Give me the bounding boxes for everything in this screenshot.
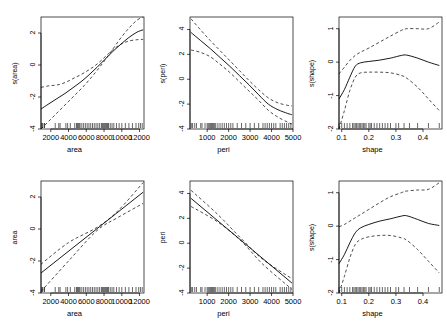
panel-top-right: -2-1010.10.20.30.4shapes(shape): [298, 0, 447, 164]
series-fit: [339, 55, 439, 99]
y-tick-label: 0: [26, 61, 38, 68]
y-tick-label-text: 4: [178, 23, 185, 35]
series-upper-se: [41, 183, 143, 265]
y-tick-label-text: -4: [29, 123, 36, 135]
y-axis-label-text: peri: [160, 231, 167, 243]
y-tick-label-text: 0: [327, 220, 334, 232]
y-axis-label: s(shape): [306, 181, 318, 293]
y-tick-label: 1: [324, 25, 336, 32]
series-lower-se: [339, 72, 439, 129]
plot-frame: [190, 181, 293, 293]
plot-grid: -4-20220004000600080001000012000areas(ar…: [0, 0, 447, 328]
y-axis-label: s(area): [8, 17, 20, 129]
y-tick-label: -2: [324, 125, 336, 132]
x-axis-label: area: [0, 310, 149, 318]
y-tick-label: -2: [26, 93, 38, 100]
y-tick-label: 0: [324, 222, 336, 229]
y-tick-label: 2: [175, 214, 187, 221]
y-tick-label-text: 0: [29, 59, 36, 71]
y-tick-label-text: -2: [29, 91, 36, 103]
x-tick-label: 0.4: [407, 134, 439, 142]
panel-bottom-left: -4-20220004000600080001000012000areaarea: [0, 164, 149, 328]
plot-frame: [339, 17, 442, 129]
y-tick-label-text: 0: [178, 73, 185, 85]
x-axis-label: peri: [149, 310, 298, 318]
panel-top-middle: -4-202410002000300040005000peris(peri): [149, 0, 298, 164]
x-tick-label: 0.4: [407, 298, 439, 306]
y-tick-label-text: -4: [178, 287, 185, 299]
panel-top-left: -4-20220004000600080001000012000areas(ar…: [0, 0, 149, 164]
y-tick-label-text: -2: [178, 98, 185, 110]
y-axis-label-text: s(shape): [309, 223, 316, 250]
y-tick-label-text: 1: [327, 186, 334, 198]
series-lower-se: [41, 17, 143, 129]
y-tick-label: -4: [175, 289, 187, 296]
y-tick-label-text: 0: [178, 237, 185, 249]
plot-frame: [41, 181, 144, 293]
y-tick-label-text: -4: [29, 287, 36, 299]
y-tick-label-text: -1: [327, 253, 334, 265]
y-tick-label: -1: [324, 256, 336, 263]
panel-bottom-right: -2-1010.10.20.30.4shapes(shape): [298, 164, 447, 328]
y-tick-label: 0: [26, 225, 38, 232]
y-tick-label-text: 1: [327, 22, 334, 34]
y-tick-label-text: -2: [29, 255, 36, 267]
y-tick-label: -4: [26, 289, 38, 296]
series-fit: [191, 198, 292, 283]
y-axis-label-text: s(area): [11, 62, 18, 84]
y-tick-label-text: 4: [178, 187, 185, 199]
y-tick-label: 0: [324, 58, 336, 65]
y-tick-label: -2: [324, 289, 336, 296]
x-axis-label: peri: [149, 146, 298, 154]
y-tick-label-text: -2: [327, 287, 334, 299]
x-axis-label: shape: [298, 310, 447, 318]
y-tick-label-text: 0: [327, 56, 334, 68]
y-axis-label: s(shape): [306, 17, 318, 129]
x-axis-label: area: [0, 146, 149, 154]
series-lower-se: [191, 207, 292, 290]
series-lower-se: [191, 50, 292, 124]
x-axis-label: shape: [298, 146, 447, 154]
y-tick-label-text: -1: [327, 89, 334, 101]
y-tick-label: 1: [324, 189, 336, 196]
y-tick-label: 4: [175, 25, 187, 32]
y-axis-label: peri: [157, 181, 169, 293]
y-tick-label: 2: [26, 193, 38, 200]
series-upper-se: [191, 190, 292, 278]
plot-frame: [41, 17, 144, 129]
y-axis-label-text: s(shape): [309, 59, 316, 86]
y-tick-label: 0: [175, 75, 187, 82]
y-tick-label: -1: [324, 92, 336, 99]
y-tick-label-text: -2: [178, 262, 185, 274]
series-lower-se: [339, 235, 439, 293]
y-tick-label-text: 2: [178, 212, 185, 224]
y-tick-label-text: -2: [327, 123, 334, 135]
plot-frame: [190, 17, 293, 129]
y-tick-label: 0: [175, 239, 187, 246]
y-tick-label: -2: [175, 100, 187, 107]
y-tick-label-text: 0: [29, 223, 36, 235]
y-axis-label-text: s(peri): [160, 63, 167, 83]
y-tick-label-text: 2: [29, 27, 36, 39]
plot-frame: [339, 181, 442, 293]
y-axis-label: area: [8, 181, 20, 293]
y-tick-label: -4: [175, 125, 187, 132]
series-upper-se: [339, 22, 439, 74]
y-tick-label-text: 2: [29, 191, 36, 203]
y-axis-label-text: area: [11, 230, 18, 244]
y-tick-label-text: -4: [178, 123, 185, 135]
y-tick-label: -2: [26, 257, 38, 264]
panel-bottom-middle: -4-202410002000300040005000periperi: [149, 164, 298, 328]
series-lower-se: [41, 203, 143, 291]
y-axis-label: s(peri): [157, 17, 169, 129]
series-upper-se: [191, 19, 292, 106]
y-tick-label-text: 2: [178, 48, 185, 60]
y-tick-label: -2: [175, 264, 187, 271]
y-tick-label: 2: [26, 29, 38, 36]
y-tick-label: 4: [175, 189, 187, 196]
y-tick-label: 2: [175, 50, 187, 57]
series-upper-se: [339, 183, 439, 227]
series-fit: [41, 192, 143, 273]
series-upper-se: [41, 39, 143, 87]
y-tick-label: -4: [26, 125, 38, 132]
